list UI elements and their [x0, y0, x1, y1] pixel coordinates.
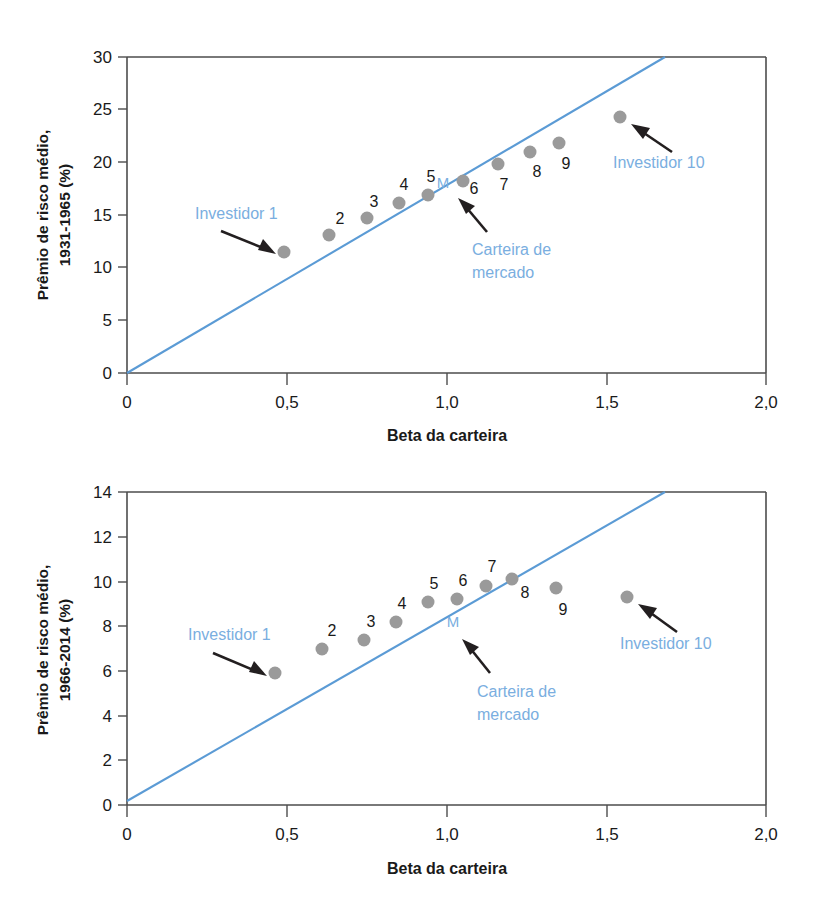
point-label: 5 — [427, 168, 436, 185]
y-tick-label: 5 — [103, 311, 112, 330]
x-tick-label: 0 — [122, 393, 131, 412]
scatter-plot-1931-1965: 30 25 20 15 10 5 0 Prêmio de risco médio… — [0, 0, 819, 450]
annotation-investor-10-top: Investidor 10 — [613, 124, 705, 171]
data-point — [316, 643, 329, 656]
x-axis-title: Beta da carteira — [387, 427, 507, 444]
point-label: 6 — [459, 572, 468, 589]
annotation-label-line2: mercado — [477, 706, 539, 723]
y-axis-title-bottom: Prêmio de risco médio, 1966-2014 (%) — [34, 565, 73, 736]
x-tick-label: 2,0 — [754, 393, 778, 412]
data-point — [393, 197, 406, 210]
chart-panel-1931-1965: 30 25 20 15 10 5 0 Prêmio de risco médio… — [0, 0, 819, 450]
data-point — [422, 189, 435, 202]
y-axis-top: 30 25 20 15 10 5 0 — [93, 48, 127, 383]
data-point — [506, 573, 519, 586]
data-point — [451, 593, 464, 606]
point-label: 9 — [562, 155, 571, 172]
x-tick-label: 1,0 — [435, 825, 459, 844]
annotation-label: Investidor 10 — [613, 154, 705, 171]
annotation-market-portfolio-top: Carteira de mercado — [458, 198, 551, 281]
x-tick-label: 1,5 — [595, 393, 619, 412]
data-point — [269, 667, 282, 680]
security-market-line — [127, 492, 665, 801]
point-label: 8 — [521, 584, 530, 601]
data-point — [278, 246, 291, 259]
data-point — [390, 616, 403, 629]
data-point — [550, 582, 563, 595]
point-label: 4 — [400, 176, 409, 193]
annotation-investor-1-top: Investidor 1 — [195, 205, 278, 254]
y-tick-label: 14 — [93, 483, 112, 502]
y-tick-label: 10 — [93, 258, 112, 277]
x-axis-bottom: 0 0,5 1,0 1,5 2,0 Beta da carteira — [122, 805, 778, 877]
x-axis-top: 0 0,5 1,0 1,5 2,0 Beta da carteira — [122, 373, 778, 444]
data-point — [422, 596, 435, 609]
y-tick-label: 25 — [93, 100, 112, 119]
data-point — [457, 175, 470, 188]
y-tick-label: 10 — [93, 573, 112, 592]
point-label: 6 — [470, 180, 479, 197]
point-label: 2 — [328, 622, 337, 639]
data-point — [614, 111, 627, 124]
point-label: 5 — [430, 575, 439, 592]
data-point — [621, 591, 634, 604]
data-point — [480, 580, 493, 593]
x-tick-label: 2,0 — [754, 825, 778, 844]
y-tick-label: 0 — [103, 364, 112, 383]
y-axis-title-line2: 1966-2014 (%) — [56, 599, 73, 702]
annotation-investor-1-bottom: Investidor 1 — [188, 626, 271, 676]
point-label: 3 — [370, 193, 379, 210]
annotation-label-line2: mercado — [472, 264, 534, 281]
annotation-label: Investidor 10 — [620, 635, 712, 652]
annotation-label-line1: Carteira de — [477, 683, 556, 700]
figure-two-scatter-panels: 30 25 20 15 10 5 0 Prêmio de risco médio… — [0, 0, 819, 901]
data-point — [361, 212, 374, 225]
y-tick-label: 0 — [103, 796, 112, 815]
annotation-label: Investidor 1 — [195, 205, 278, 222]
scatter-plot-1966-2014: 14 12 10 8 6 4 2 0 Prêmio de risco médio… — [0, 450, 819, 901]
y-tick-label: 8 — [103, 617, 112, 636]
y-axis-title-line1: Prêmio de risco médio, — [34, 565, 51, 736]
market-portfolio-marker: M — [447, 613, 460, 630]
x-tick-label: 1,0 — [435, 393, 459, 412]
annotation-label: Investidor 1 — [188, 626, 271, 643]
annotation-label-line1: Carteira de — [472, 241, 551, 258]
x-axis-title: Beta da carteira — [387, 860, 507, 877]
point-label: 7 — [500, 176, 509, 193]
data-point — [492, 158, 505, 171]
data-point — [323, 229, 336, 242]
y-axis-bottom: 14 12 10 8 6 4 2 0 — [93, 483, 127, 815]
y-tick-label: 6 — [103, 662, 112, 681]
chart-panel-1966-2014: 14 12 10 8 6 4 2 0 Prêmio de risco médio… — [0, 450, 819, 901]
point-label: 7 — [488, 558, 497, 575]
x-tick-label: 1,5 — [595, 825, 619, 844]
y-tick-label: 4 — [103, 707, 112, 726]
data-point — [358, 634, 371, 647]
y-tick-label: 2 — [103, 751, 112, 770]
point-label: 2 — [336, 210, 345, 227]
y-tick-label: 30 — [93, 48, 112, 67]
annotation-market-portfolio-bottom: Carteira de mercado — [462, 639, 556, 723]
y-axis-title-line1: Prêmio de risco médio, — [34, 130, 51, 301]
data-point — [524, 146, 537, 159]
market-portfolio-marker: M — [437, 174, 450, 191]
annotation-investor-10-bottom: Investidor 10 — [620, 604, 712, 652]
data-point — [553, 137, 566, 150]
x-tick-label: 0,5 — [275, 393, 299, 412]
y-tick-label: 12 — [93, 528, 112, 547]
point-label: 8 — [533, 163, 542, 180]
y-axis-title-line2: 1931-1965 (%) — [56, 164, 73, 267]
x-tick-label: 0 — [122, 825, 131, 844]
data-points-top — [278, 111, 627, 259]
point-label: 4 — [398, 595, 407, 612]
point-label: 9 — [559, 601, 568, 618]
y-axis-title-top: Prêmio de risco médio, 1931-1965 (%) — [34, 130, 73, 301]
point-label: 3 — [367, 613, 376, 630]
y-tick-label: 20 — [93, 153, 112, 172]
y-tick-label: 15 — [93, 206, 112, 225]
x-tick-label: 0,5 — [275, 825, 299, 844]
